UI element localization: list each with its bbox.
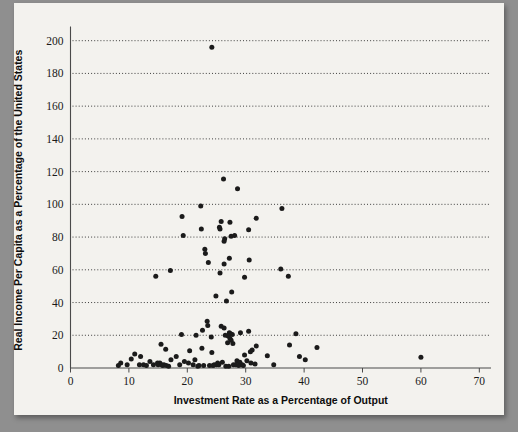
data-point <box>418 355 423 360</box>
data-point <box>286 274 291 279</box>
x-tick-label: 70 <box>474 375 486 387</box>
data-point <box>254 216 259 221</box>
data-point <box>199 346 204 351</box>
x-tick-label: 50 <box>357 375 369 387</box>
data-point <box>201 363 206 368</box>
figure-root: 0102030405060700204060801001201401601802… <box>0 0 518 432</box>
data-point <box>218 226 223 231</box>
data-point <box>287 343 292 348</box>
data-point <box>209 334 214 339</box>
data-point <box>203 251 208 256</box>
data-point <box>200 328 205 333</box>
data-point <box>198 203 203 208</box>
data-point <box>235 186 240 191</box>
data-point <box>303 357 308 362</box>
data-point <box>205 323 210 328</box>
y-tick-label: 100 <box>46 198 64 210</box>
data-point <box>180 214 185 219</box>
data-point <box>222 239 227 244</box>
x-tick-label: 0 <box>68 375 74 387</box>
data-point <box>209 350 214 355</box>
data-point <box>166 364 171 369</box>
data-point <box>209 45 214 50</box>
data-point <box>168 268 173 273</box>
data-point <box>192 357 197 362</box>
data-point <box>138 354 143 359</box>
data-point <box>216 362 221 367</box>
data-point <box>297 354 302 359</box>
data-point <box>246 329 251 334</box>
x-tick-label: 60 <box>415 375 427 387</box>
data-point <box>236 363 241 368</box>
data-point <box>314 345 319 350</box>
data-point <box>163 347 168 352</box>
data-point <box>116 363 121 368</box>
data-point <box>144 363 149 368</box>
data-point <box>227 220 232 225</box>
x-axis-title: Investment Rate as a Percentage of Outpu… <box>174 394 389 406</box>
data-point <box>129 357 134 362</box>
data-point <box>159 342 164 347</box>
data-point <box>225 340 230 345</box>
data-point <box>242 352 247 357</box>
data-point <box>222 262 227 267</box>
data-point <box>246 227 251 232</box>
y-axis-title: Real Income Per Capita as a Percentage o… <box>12 50 24 351</box>
data-point <box>226 364 231 369</box>
data-point <box>177 362 182 367</box>
y-tick-label: 0 <box>58 362 64 374</box>
x-tick-label: 20 <box>182 375 194 387</box>
data-point <box>241 363 246 368</box>
data-point <box>238 330 243 335</box>
scatter-plot-canvas: 0102030405060700204060801001201401601802… <box>0 0 518 432</box>
data-point <box>181 233 186 238</box>
scatter-plot: 0102030405060700204060801001201401601802… <box>0 0 518 432</box>
data-point <box>253 361 258 366</box>
data-point <box>254 343 259 348</box>
y-tick-label: 140 <box>46 133 64 145</box>
data-point <box>279 206 284 211</box>
data-point <box>191 362 196 367</box>
data-point <box>168 357 173 362</box>
data-point <box>219 219 224 224</box>
y-tick-label: 40 <box>52 297 64 309</box>
data-point <box>271 362 276 367</box>
data-point <box>227 256 232 261</box>
data-point <box>125 362 130 367</box>
x-tick-label: 30 <box>240 375 252 387</box>
x-tick-label: 10 <box>123 375 135 387</box>
data-point <box>151 362 156 367</box>
y-tick-label: 120 <box>46 166 64 178</box>
data-point <box>224 298 229 303</box>
data-point <box>199 226 204 231</box>
data-point <box>229 234 234 239</box>
data-point <box>211 363 216 368</box>
y-tick-label: 20 <box>52 329 64 341</box>
data-point <box>229 289 234 294</box>
data-point <box>247 257 252 262</box>
data-point <box>194 333 199 338</box>
data-point <box>206 260 211 265</box>
x-tick-label: 40 <box>298 375 310 387</box>
data-point <box>293 331 298 336</box>
data-point <box>174 354 179 359</box>
data-point <box>213 293 218 298</box>
y-tick-label: 200 <box>46 35 64 47</box>
data-point <box>187 348 192 353</box>
data-point <box>221 176 226 181</box>
y-tick-label: 80 <box>52 231 64 243</box>
y-tick-label: 60 <box>52 264 64 276</box>
y-tick-label: 160 <box>46 100 64 112</box>
y-tick-label: 180 <box>46 67 64 79</box>
data-point <box>265 353 270 358</box>
data-point <box>248 349 253 354</box>
data-point <box>218 271 223 276</box>
data-point <box>132 352 137 357</box>
data-point <box>222 325 227 330</box>
data-point <box>195 364 200 369</box>
data-point <box>278 266 283 271</box>
data-point <box>186 361 191 366</box>
data-point <box>230 341 235 346</box>
data-point <box>242 275 247 280</box>
data-point <box>153 274 158 279</box>
